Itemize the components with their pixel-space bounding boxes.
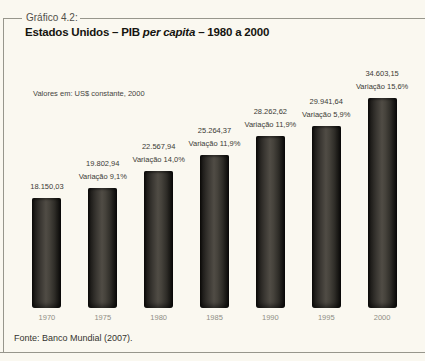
- frame-top-border-right-segment: [80, 18, 425, 19]
- bar-variation-label: Variação 15,6%: [356, 80, 408, 93]
- bar-value-label: 18.150,03: [30, 180, 63, 193]
- frame-bottom-border: [0, 352, 425, 353]
- bar-value-label: 22.567,94: [132, 140, 184, 153]
- bar-column: 29.941,64Variação 5,9%: [298, 58, 354, 308]
- bars-row: 18.150,0319.802,94Variação 9,1%22.567,94…: [19, 58, 410, 308]
- year-label: 1975: [75, 313, 131, 322]
- year-label: 2000: [354, 313, 410, 322]
- frame-left-border: [3, 18, 4, 352]
- bar-column: 22.567,94Variação 14,0%: [131, 58, 187, 308]
- year-label: 1995: [298, 313, 354, 322]
- bar-column: 34.603,15Variação 15,6%: [354, 58, 410, 308]
- bar-label-group: 29.941,64Variação 5,9%: [302, 95, 350, 121]
- year-label: 1990: [242, 313, 298, 322]
- bar-label-group: 19.802,94Variação 9,1%: [79, 157, 127, 183]
- bar: [144, 171, 173, 308]
- bar-column: 19.802,94Variação 9,1%: [75, 58, 131, 308]
- chart-title: Estados Unidos – PIB per capita – 1980 a…: [25, 26, 269, 38]
- chart-title-suffix: – 1980 a 2000: [195, 26, 269, 38]
- bar-label-group: 34.603,15Variação 15,6%: [356, 67, 408, 93]
- bar-column: 18.150,03: [19, 58, 75, 308]
- bar: [312, 126, 341, 308]
- bar-column: 25.264,37Variação 11,9%: [187, 58, 243, 308]
- chart-title-prefix: Estados Unidos – PIB: [25, 26, 143, 38]
- bar: [200, 155, 229, 308]
- figure-tag-label: Gráfico 4.2:: [26, 12, 78, 23]
- bar-column: 28.262,62Variação 11,9%: [242, 58, 298, 308]
- bar-value-label: 34.603,15: [356, 67, 408, 80]
- bar-value-label: 19.802,94: [79, 157, 127, 170]
- bar-variation-label: Variação 9,1%: [79, 170, 127, 183]
- bar-variation-label: Variação 11,9%: [189, 137, 241, 150]
- chart-title-italic: per capita: [143, 26, 195, 38]
- bar-variation-label: Variação 11,9%: [244, 118, 296, 131]
- bar: [32, 198, 61, 308]
- year-label: 1980: [131, 313, 187, 322]
- bar-label-group: 18.150,03: [30, 180, 63, 193]
- bar-label-group: 22.567,94Variação 14,0%: [132, 140, 184, 166]
- frame-top-border-left-segment: [3, 18, 22, 19]
- bar-value-label: 25.264,37: [189, 124, 241, 137]
- bar-variation-label: Variação 5,9%: [302, 108, 350, 121]
- bar-value-label: 29.941,64: [302, 95, 350, 108]
- bar: [88, 188, 117, 308]
- bar-label-group: 28.262,62Variação 11,9%: [244, 105, 296, 131]
- bar: [368, 98, 397, 308]
- bar-value-label: 28.262,62: [244, 105, 296, 118]
- source-text: Fonte: Banco Mundial (2007).: [14, 333, 133, 343]
- years-row: 1970197519801985199019952000: [19, 313, 410, 322]
- bar-label-group: 25.264,37Variação 11,9%: [189, 124, 241, 150]
- year-label: 1970: [19, 313, 75, 322]
- bar: [256, 136, 285, 308]
- year-label: 1985: [187, 313, 243, 322]
- bar-variation-label: Variação 14,0%: [132, 153, 184, 166]
